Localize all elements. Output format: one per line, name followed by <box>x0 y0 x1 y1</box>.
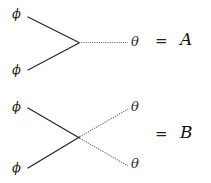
label-a-equals: = <box>155 34 168 49</box>
label-b-amplitude: B <box>180 124 193 141</box>
b-phi-top-line <box>28 108 80 138</box>
b-theta-bottom-dotted-line <box>80 138 129 166</box>
b-theta-top-dotted-line <box>80 109 129 137</box>
label-b-phi-bottom: ϕ <box>12 161 21 174</box>
diagram-b-lines <box>28 108 128 168</box>
label-b-phi-top: ϕ <box>12 100 21 113</box>
label-a-phi-bottom: ϕ <box>12 63 21 76</box>
b-phi-bottom-line <box>28 137 80 168</box>
label-b-equals: = <box>155 127 168 142</box>
label-b-theta-bottom: θ <box>131 157 139 170</box>
diagram-canvas <box>0 0 211 183</box>
diagram-a-lines <box>28 17 128 70</box>
label-b-theta-top: θ <box>131 100 139 113</box>
label-a-theta: θ <box>131 35 139 48</box>
a-phi-bottom-line <box>28 43 79 70</box>
label-a-phi-top: ϕ <box>12 7 21 20</box>
a-phi-top-line <box>28 17 79 43</box>
label-a-amplitude: A <box>180 31 192 48</box>
